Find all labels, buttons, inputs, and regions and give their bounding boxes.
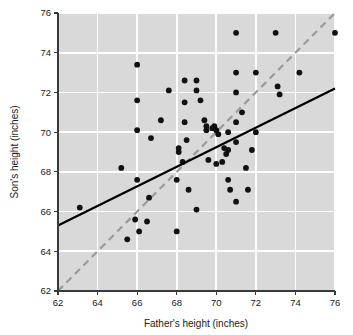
data-point [174,229,180,235]
data-point [219,159,225,165]
data-point [166,88,172,94]
data-point [182,78,188,84]
x-tick-label: 76 [330,297,341,308]
scatter-chart: 6264666870727476 6264666870727476 Father… [0,0,353,335]
chart-svg: 6264666870727476 6264666870727476 Father… [0,0,353,335]
y-tick-label: 68 [40,166,51,177]
x-tick-label: 74 [290,297,301,308]
data-point [186,187,192,193]
y-tick-label: 70 [40,127,51,138]
data-point [277,92,283,98]
data-point [225,177,231,183]
data-point [233,199,239,205]
data-point [176,149,182,155]
data-point [144,219,150,225]
data-point [227,187,233,193]
data-point [243,165,249,171]
data-point [158,117,164,123]
data-point [203,127,209,133]
data-point [124,236,130,242]
data-point [275,84,281,90]
data-point [134,62,140,68]
data-point [182,99,188,105]
data-point [136,229,142,235]
x-tick-label: 66 [132,297,143,308]
data-point [245,187,251,193]
data-point [213,161,219,167]
data-point [194,78,200,84]
x-tick-label: 70 [211,297,222,308]
y-tick-label: 64 [40,246,51,257]
data-point [273,30,279,36]
x-tick-label: 62 [53,297,64,308]
data-point [239,109,245,115]
data-point [148,135,154,141]
data-point [253,129,259,135]
data-point [332,30,338,36]
data-point [215,131,221,137]
y-axis-title: Son's height (inches) [9,105,20,198]
data-point [205,157,211,163]
x-tick-label: 72 [251,297,262,308]
y-tick-label: 72 [40,87,51,98]
y-tick-label: 74 [40,47,51,58]
data-point [134,177,140,183]
data-point [225,129,231,135]
data-point [233,70,239,76]
data-point [194,207,200,213]
data-point [134,127,140,133]
x-axis-title: Father's height (inches) [144,318,248,329]
data-point [202,117,208,123]
data-point [233,139,239,145]
data-point [233,119,239,125]
data-point [134,97,140,103]
data-point [249,147,255,153]
data-point [194,88,200,94]
x-tick-label: 68 [171,297,182,308]
data-point [77,205,83,211]
data-point [182,119,188,125]
y-tick-label: 76 [40,7,51,18]
data-point [174,177,180,183]
data-point [233,30,239,36]
data-point [198,97,204,103]
data-point [146,195,152,201]
data-point [184,137,190,143]
data-point [296,70,302,76]
y-tick-label: 66 [40,206,51,217]
data-point [253,70,259,76]
data-point [225,147,231,153]
data-point [233,90,239,96]
y-tick-label: 62 [40,285,51,296]
data-point [118,165,124,171]
data-point [132,217,138,223]
x-tick-label: 64 [92,297,103,308]
